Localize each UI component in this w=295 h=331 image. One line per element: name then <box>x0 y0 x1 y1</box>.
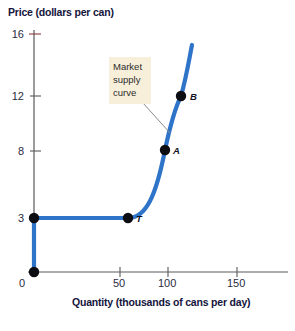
point-a-marker <box>160 145 170 155</box>
y-tick-label-16: 16 <box>8 28 24 40</box>
callout-line-2: supply <box>113 73 151 86</box>
supply-curve-figure: Price (dollars per can) Market supply cu… <box>0 0 295 331</box>
chart-canvas <box>0 0 295 331</box>
point-t-label: T <box>136 213 142 224</box>
x-tick-label-0: 0 <box>19 277 25 289</box>
y-tick-label-12: 12 <box>8 90 24 102</box>
price-floor-point-marker <box>29 213 39 223</box>
point-b-label: B <box>190 91 197 102</box>
callout-line-1: Market <box>113 60 151 73</box>
callout-line-3: curve <box>113 86 151 99</box>
x-axis-title: Quantity (thousands of cans per day) <box>72 296 250 308</box>
x-tick-label-150: 150 <box>227 277 245 289</box>
y-tick-label-8: 8 <box>8 145 24 157</box>
y-tick-label-3: 3 <box>8 212 24 224</box>
point-t-marker <box>123 213 133 223</box>
x-tick-label-50: 50 <box>113 277 125 289</box>
callout-leader-line <box>143 103 170 133</box>
point-a-label: A <box>173 145 180 156</box>
origin-point-marker <box>29 267 39 277</box>
point-b-marker <box>176 91 186 101</box>
market-supply-curve-callout: Market supply curve <box>109 57 151 104</box>
x-tick-label-100: 100 <box>158 277 176 289</box>
